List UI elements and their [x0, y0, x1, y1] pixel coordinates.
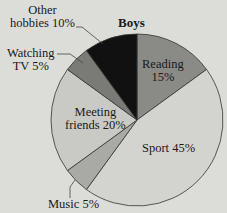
label-sport: Sport 45%	[142, 142, 195, 155]
label-line: 15%	[142, 71, 184, 84]
label-line: Sport 45%	[142, 142, 195, 155]
label-music: Music 5%	[48, 198, 99, 211]
label-line: friends 20%	[65, 119, 126, 132]
label-line: Music 5%	[48, 198, 99, 211]
label-meeting-friends: Meeting friends 20%	[65, 106, 126, 132]
chart-title: Boys	[118, 16, 145, 29]
leader-line	[76, 27, 103, 44]
leader-line	[70, 180, 75, 198]
pie-chart: Boys Other hobbies 10% Watching TV 5% Re…	[0, 0, 227, 213]
label-line: TV 5%	[7, 60, 55, 73]
label-watching-tv: Watching TV 5%	[7, 47, 55, 73]
label-other-hobbies: Other hobbies 10%	[10, 4, 75, 30]
label-reading: Reading 15%	[142, 58, 184, 84]
label-line: hobbies 10%	[10, 17, 75, 30]
